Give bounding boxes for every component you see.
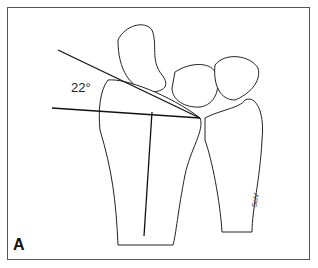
ulna-bone [205,99,263,232]
hamate-bone [215,57,259,100]
capitate-bone [172,65,218,108]
angle-label: 22° [71,80,91,95]
wrist-illustration [0,0,318,268]
panel-label: A [13,236,25,254]
